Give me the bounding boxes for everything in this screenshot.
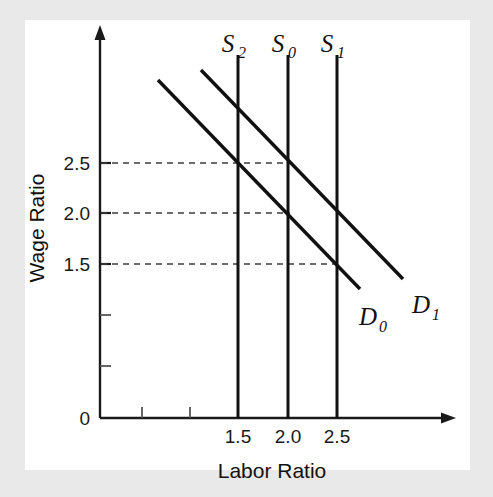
axes-group — [95, 25, 457, 424]
x-tick-labels: 1.5 2.0 2.5 — [225, 426, 350, 447]
label-d1-main: D — [411, 291, 430, 318]
y-tick-label-2-5: 2.5 — [64, 153, 90, 174]
label-s2: S 2 — [222, 30, 246, 61]
label-s2-sub: 2 — [238, 44, 246, 61]
y-axis-title: Wage Ratio — [25, 174, 48, 283]
curve-annotations: S 2 S 0 S 1 D 0 D 1 — [222, 30, 440, 335]
label-s0: S 0 — [272, 30, 296, 61]
label-s2-main: S — [222, 30, 235, 57]
label-s0-main: S — [272, 30, 285, 57]
label-s1-main: S — [321, 30, 334, 57]
y-axis-arrow-icon — [95, 25, 106, 40]
origin-label: 0 — [79, 408, 90, 429]
x-tick-label-1-5: 1.5 — [225, 426, 251, 447]
label-d0-main: D — [358, 303, 377, 330]
x-axis-arrow-icon — [441, 413, 456, 424]
label-s0-sub: 0 — [288, 44, 296, 61]
x-tick-label-2-5: 2.5 — [324, 426, 350, 447]
label-d0-sub: 0 — [379, 318, 387, 335]
y-tick-label-2-0: 2.0 — [64, 203, 90, 224]
x-axis-title: Labor Ratio — [218, 459, 327, 482]
demand-curve-d0[interactable] — [158, 80, 360, 289]
supply-curves-group — [238, 55, 337, 418]
y-tick-labels: 2.5 2.0 1.5 0 — [64, 153, 90, 429]
label-d1: D 1 — [411, 291, 440, 323]
chart-svg: 2.5 2.0 1.5 0 1.5 2.0 2.5 S 2 S 0 S — [0, 0, 493, 497]
y-tick-label-1-5: 1.5 — [64, 254, 90, 275]
demand-curves-group — [158, 70, 403, 289]
label-s1-sub: 1 — [337, 44, 345, 61]
label-s1: S 1 — [321, 30, 345, 61]
x-axis-ticks — [142, 407, 190, 418]
label-d1-sub: 1 — [432, 306, 440, 323]
label-d0: D 0 — [358, 303, 387, 335]
x-tick-label-2-0: 2.0 — [275, 426, 301, 447]
demand-curve-d1[interactable] — [201, 70, 403, 279]
economics-supply-demand-figure: 2.5 2.0 1.5 0 1.5 2.0 2.5 S 2 S 0 S — [0, 0, 493, 497]
